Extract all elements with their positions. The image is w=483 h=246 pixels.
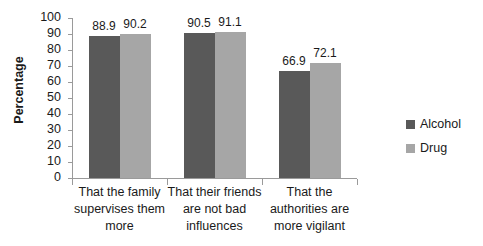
y-axis-tick-label: 100: [21, 10, 61, 24]
y-axis-tick: 70: [68, 66, 73, 67]
legend-label-drug: Drug: [420, 141, 447, 155]
bar-value-label: 91.1: [209, 15, 252, 29]
y-axis-tick-label: 40: [21, 106, 61, 120]
bar-value-label: 72.1: [304, 46, 347, 60]
category-label-line: more: [72, 218, 167, 235]
category-label-line: are not bad: [167, 201, 262, 218]
y-axis-tick-label: 20: [21, 138, 61, 152]
category-label-line: supervises them: [72, 201, 167, 218]
y-axis-tick-label: 80: [21, 42, 61, 56]
bar-alcohol-1: [89, 36, 120, 178]
y-axis-tick: 40: [68, 114, 73, 115]
y-axis-tick-label: 60: [21, 74, 61, 88]
y-axis-tick: 20: [68, 146, 73, 147]
bar-drug-2: [215, 32, 246, 178]
y-axis-tick: 10: [68, 162, 73, 163]
y-axis-tick: 60: [68, 82, 73, 83]
legend: Alcohol Drug: [406, 112, 480, 160]
legend-swatch-icon-alcohol: [406, 120, 415, 129]
category-label-line: That the family: [72, 184, 167, 201]
y-axis-tick: 50: [68, 98, 73, 99]
category-label-line: authorities are: [262, 201, 357, 218]
bar-drug-3: [310, 63, 341, 178]
y-axis-tick: 80: [68, 50, 73, 51]
x-axis-category-label-2: That their friendsare not badinfluences: [167, 184, 262, 235]
y-axis-tick: 90: [68, 34, 73, 35]
legend-item-alcohol: Alcohol: [406, 112, 480, 136]
category-label-line: influences: [167, 218, 262, 235]
y-axis-tick: 100: [68, 18, 73, 19]
bar-chart: Percentage 1009080706050403020100 88.990…: [0, 0, 483, 246]
legend-item-drug: Drug: [406, 136, 480, 160]
bar-alcohol-2: [184, 33, 215, 178]
y-axis-tick-label: 0: [21, 170, 61, 184]
category-label-line: That the: [262, 184, 357, 201]
x-axis-category-label-3: That theauthorities aremore vigilant: [262, 184, 357, 235]
bar-alcohol-3: [279, 71, 310, 178]
bar-value-label: 90.2: [114, 17, 157, 31]
x-axis-category-label-1: That the familysupervises themmore: [72, 184, 167, 235]
y-axis-tick-label: 70: [21, 58, 61, 72]
category-label-line: more vigilant: [262, 218, 357, 235]
category-label-line: That their friends: [167, 184, 262, 201]
y-axis-tick: 30: [68, 130, 73, 131]
bar-drug-1: [120, 34, 151, 178]
category-separator-tick: [357, 179, 358, 185]
y-axis-tick-label: 90: [21, 26, 61, 40]
x-axis-line: [72, 178, 357, 179]
y-axis-tick-label: 50: [21, 90, 61, 104]
legend-swatch-icon-drug: [406, 144, 415, 153]
legend-label-alcohol: Alcohol: [420, 117, 461, 131]
plot-area: 1009080706050403020100 88.990.290.591.16…: [72, 18, 357, 178]
y-axis-tick-label: 10: [21, 154, 61, 168]
y-axis-tick-label: 30: [21, 122, 61, 136]
